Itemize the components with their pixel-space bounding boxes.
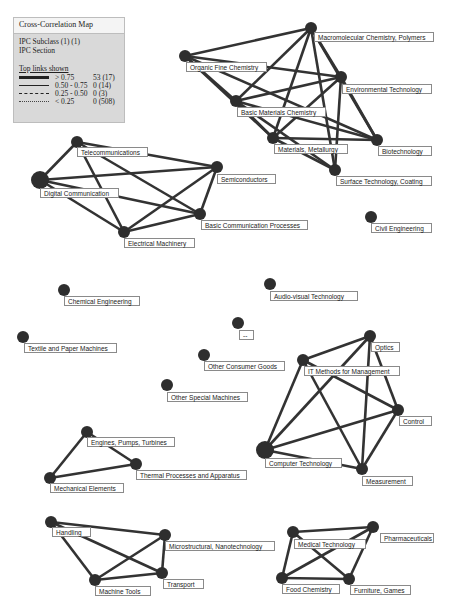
node-basicmat[interactable] — [230, 95, 242, 107]
node-transport[interactable] — [156, 567, 168, 579]
thick-line-sample-icon — [19, 76, 49, 79]
node-medical[interactable] — [287, 526, 299, 538]
node-label-transport[interactable]: Transport — [163, 579, 204, 589]
node-dash[interactable] — [232, 317, 244, 329]
node-label-av[interactable]: Audio-visual Technology — [270, 291, 358, 301]
node-civil[interactable] — [365, 211, 377, 223]
edge-thermal-mech — [50, 464, 136, 478]
node-label-special[interactable]: Other Special Machines — [167, 392, 248, 402]
edge-engines-mech — [50, 432, 87, 478]
node-measure[interactable] — [356, 463, 368, 475]
node-digital[interactable] — [31, 171, 49, 189]
node-label-civil[interactable]: Civil Engineering — [371, 223, 432, 233]
node-label-basicmat[interactable]: Basic Materials Chemistry — [237, 107, 326, 117]
node-computer[interactable] — [256, 441, 274, 459]
node-label-thermal[interactable]: Thermal Processes and Apparatus — [136, 470, 247, 480]
node-label-medical[interactable]: Medical Technology — [294, 539, 366, 549]
node-furniture[interactable] — [343, 573, 355, 585]
node-chem[interactable] — [58, 284, 70, 296]
node-label-organic[interactable]: Organic Fine Chemistry — [186, 62, 267, 72]
node-organic[interactable] — [179, 50, 191, 62]
node-label-pharma[interactable]: Pharmaceuticals — [380, 533, 434, 543]
node-label-control[interactable]: Control — [399, 416, 432, 426]
edge-metal-biotech — [273, 138, 377, 140]
node-control[interactable] — [392, 404, 404, 416]
node-special[interactable] — [161, 379, 173, 391]
node-machtools[interactable] — [89, 574, 101, 586]
node-basiccomm[interactable] — [194, 208, 206, 220]
node-biotech[interactable] — [371, 134, 383, 146]
node-label-metal[interactable]: Materials, Metallurgy — [274, 144, 348, 154]
node-av[interactable] — [264, 278, 276, 290]
edge-medical-pharma — [293, 527, 373, 532]
legend-count: 0 (508) — [93, 97, 115, 106]
node-label-semi[interactable]: Semiconductors — [217, 174, 276, 184]
edge-optics-measure — [362, 336, 370, 469]
node-optics[interactable] — [364, 330, 376, 342]
legend-title: Cross-Correlation Map — [14, 18, 124, 34]
node-surface[interactable] — [329, 164, 341, 176]
node-label-handling[interactable]: Handling — [52, 527, 91, 537]
node-label-biotech[interactable]: Biotechnology — [378, 146, 432, 156]
edge-food-furniture — [282, 578, 349, 579]
node-pharma[interactable] — [367, 521, 379, 533]
edge-digital-semi — [40, 167, 217, 180]
node-env[interactable] — [335, 71, 347, 83]
edge-medical-food — [282, 532, 293, 578]
thin-line-sample-icon — [19, 85, 49, 86]
legend-panel[interactable]: Cross-Correlation Map IPC Subclass (1) (… — [13, 17, 125, 123]
node-label-micro[interactable]: Microstructural, Nanotechnology — [165, 541, 275, 551]
edge-macro-organic — [185, 28, 311, 56]
legend-ipc-section: IPC Section — [14, 46, 124, 55]
node-label-itmeth[interactable]: IT Methods for Management — [304, 366, 400, 376]
node-label-dash[interactable]: -- — [239, 330, 254, 340]
node-label-macro[interactable]: Macromolecular Chemistry, Polymers — [314, 32, 434, 42]
node-label-basiccomm[interactable]: Basic Communication Processes — [201, 220, 308, 230]
node-thermal[interactable] — [130, 458, 142, 470]
edge-itmeth-computer — [265, 360, 303, 450]
node-label-optics[interactable]: Optics — [371, 342, 400, 352]
node-label-telecom[interactable]: Telecommunications — [77, 147, 148, 157]
dotted-line-sample-icon — [19, 101, 49, 102]
node-consumer[interactable] — [198, 349, 210, 361]
node-label-digital[interactable]: Digital Communication — [40, 188, 119, 198]
node-label-env[interactable]: Environmental Technology — [342, 84, 432, 94]
node-elec[interactable] — [118, 226, 130, 238]
edge-env-basicmat — [236, 77, 341, 101]
node-metal[interactable] — [267, 132, 279, 144]
node-label-furniture[interactable]: Furniture, Games — [350, 585, 411, 595]
node-food[interactable] — [276, 572, 288, 584]
node-label-machtools[interactable]: Machine Tools — [95, 586, 151, 596]
node-textile[interactable] — [17, 331, 29, 343]
dashed-line-sample-icon — [19, 93, 49, 94]
node-label-textile[interactable]: Textile and Paper Machines — [24, 343, 117, 353]
node-label-elec[interactable]: Electrical Machinery — [124, 238, 195, 248]
node-label-measure[interactable]: Measurement — [362, 476, 413, 486]
node-label-consumer[interactable]: Other Consumer Goods — [204, 361, 285, 371]
node-label-engines[interactable]: Engines, Pumps, Turbines — [87, 437, 175, 447]
node-label-mech[interactable]: Mechanical Elements — [50, 483, 124, 493]
legend-range: < 0.25 — [55, 97, 93, 106]
node-label-chem[interactable]: Chemical Engineering — [64, 296, 140, 306]
node-itmeth[interactable] — [297, 354, 309, 366]
legend-ipc-subclass: IPC Subclass (1) (1) — [14, 37, 124, 46]
node-label-food[interactable]: Food Chemistry — [282, 584, 340, 594]
node-micro[interactable] — [159, 529, 171, 541]
legend-row-dotted: < 0.25 0 (508) — [14, 97, 124, 105]
node-label-computer[interactable]: Computer Technology — [265, 458, 342, 468]
node-semi[interactable] — [211, 161, 223, 173]
node-label-surface[interactable]: Surface Technology, Coating — [336, 176, 432, 186]
